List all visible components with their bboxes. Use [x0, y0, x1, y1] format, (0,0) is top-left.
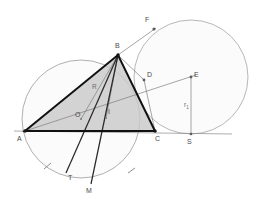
point-label-S: S: [187, 138, 192, 145]
point-label-D: D: [147, 71, 152, 78]
measure-r1-subscript: 1: [186, 105, 189, 110]
point-dot-B: [116, 53, 119, 56]
point-label-T: T: [68, 174, 73, 181]
point-label-O: O: [75, 111, 81, 118]
point-dot-E: [190, 76, 193, 79]
point-label-A: A: [17, 135, 22, 142]
geometry-figure: A B C O I M T D E S F R r1: [0, 0, 260, 210]
geometry-canvas: A B C O I M T D E S F R r1: [0, 0, 260, 210]
point-label-B: B: [115, 42, 120, 49]
point-dot-F: [152, 27, 155, 30]
point-dot-I: [105, 117, 107, 119]
point-dot-S: [190, 133, 193, 136]
point-label-F: F: [145, 16, 149, 23]
point-dot-D: [143, 79, 146, 82]
point-dot-O: [80, 118, 82, 120]
point-dot-A: [23, 129, 26, 132]
point-label-E: E: [194, 71, 199, 78]
point-label-I: I: [108, 108, 110, 115]
point-dot-C: [153, 129, 156, 132]
arc-tick-right: [128, 168, 135, 173]
point-label-C: C: [155, 135, 160, 142]
point-label-M: M: [86, 187, 92, 194]
measure-label-R: R: [92, 83, 97, 90]
